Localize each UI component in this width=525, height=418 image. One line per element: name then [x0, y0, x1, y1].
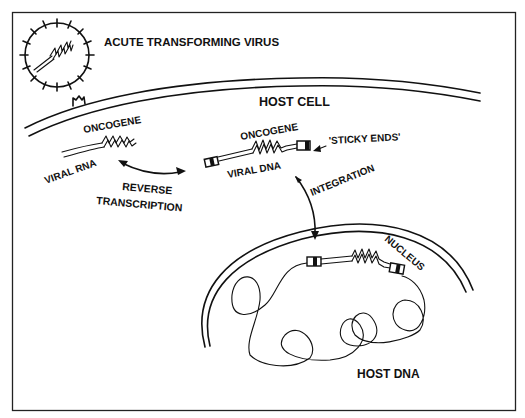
label-virus: ACUTE TRANSFORMING VIRUS	[104, 36, 279, 48]
label-host-cell: HOST CELL	[259, 95, 330, 109]
diagram-frame	[13, 13, 516, 411]
label-host-dna: HOST DNA	[357, 367, 420, 381]
diagram-canvas: ACUTE TRANSFORMING VIRUS HOST CELL ONCOG…	[0, 0, 525, 418]
